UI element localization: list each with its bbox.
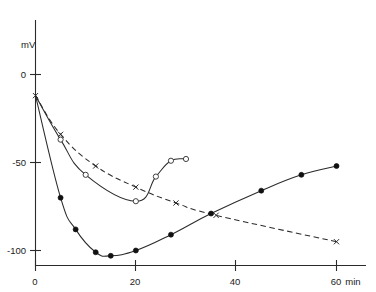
data-point-filled-circle-solid-5 — [133, 248, 138, 253]
data-point-open-circle-solid-3 — [133, 199, 138, 204]
x-tick-label-40: 40 — [230, 276, 241, 287]
data-point-open-circle-solid-5 — [168, 158, 173, 163]
data-point-filled-circle-solid-7 — [209, 211, 214, 216]
x-tick-label-0: 0 — [32, 276, 37, 287]
data-point-filled-circle-solid-6 — [168, 232, 173, 237]
y-tick-label-minus100: -100 — [7, 245, 26, 256]
data-point-open-circle-solid-2 — [83, 172, 88, 177]
x-tick-label-20: 20 — [130, 276, 141, 287]
x-axis-unit-label: min — [345, 276, 360, 287]
data-point-filled-circle-solid-8 — [259, 188, 264, 193]
data-point-open-circle-solid-4 — [153, 174, 158, 179]
data-point-open-circle-solid-1 — [58, 137, 63, 142]
y-tick-label-0: 0 — [21, 69, 26, 80]
chart-background — [0, 0, 376, 292]
y-tick-label-minus50: -50 — [12, 157, 26, 168]
chart-figure: 0 -50 -100 mV 0 20 40 60 min — [0, 0, 376, 292]
data-point-filled-circle-solid-3 — [93, 250, 98, 255]
data-point-filled-circle-solid-2 — [73, 227, 78, 232]
x-tick-label-60: 60 — [331, 276, 342, 287]
data-point-filled-circle-solid-1 — [58, 195, 63, 200]
data-point-open-circle-solid-6 — [183, 156, 188, 161]
data-point-filled-circle-solid-10 — [334, 164, 339, 169]
data-point-filled-circle-solid-9 — [299, 172, 304, 177]
y-axis-label: mV — [21, 39, 36, 50]
data-point-filled-circle-solid-4 — [108, 253, 113, 258]
